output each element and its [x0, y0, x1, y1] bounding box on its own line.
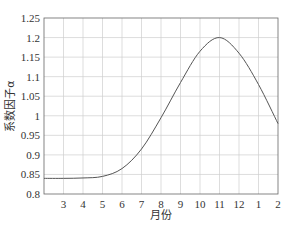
y-tick-label: 0.8	[26, 188, 40, 200]
x-tick-label: 11	[214, 198, 225, 210]
x-tick-label: 5	[100, 198, 106, 210]
y-tick-label: 1.1	[26, 71, 40, 83]
y-tick-label: 1.15	[21, 51, 41, 63]
y-tick-label: 0.85	[21, 168, 41, 180]
y-tick-label: 1.2	[26, 32, 40, 44]
x-axis-label: 月份	[150, 209, 172, 222]
y-axis-ticks: 0.80.850.90.9511.051.11.151.21.25	[21, 12, 41, 200]
x-tick-label: 9	[178, 198, 184, 210]
y-tick-label: 0.9	[26, 149, 40, 161]
y-tick-label: 1	[35, 110, 41, 122]
y-tick-label: 1.05	[21, 90, 41, 102]
x-tick-label: 6	[119, 198, 125, 210]
y-tick-label: 0.95	[21, 129, 41, 141]
x-tick-label: 7	[139, 198, 145, 210]
line-chart: 0.80.850.90.9511.051.11.151.21.25 345678…	[0, 0, 285, 227]
y-axis-label: 系数因子α	[4, 80, 17, 131]
y-tick-label: 1.25	[21, 12, 41, 24]
x-tick-label: 10	[195, 198, 207, 210]
x-tick-label: 4	[80, 198, 86, 210]
grid-lines	[44, 18, 278, 194]
x-tick-label: 2	[275, 198, 281, 210]
x-tick-label: 12	[234, 198, 245, 210]
x-tick-label: 1	[256, 198, 262, 210]
x-tick-label: 3	[61, 198, 67, 210]
